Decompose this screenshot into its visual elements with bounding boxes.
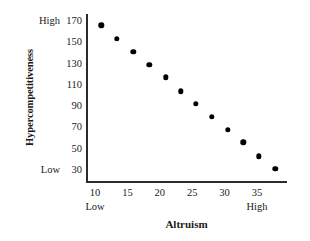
x-tick-label: 35 [252, 188, 263, 199]
x-axis-tick-labels: 101520253035LowHigh [0, 0, 310, 241]
x-tick-label: 20 [155, 188, 166, 199]
x-tick-label: 15 [122, 188, 133, 199]
scatter-chart: Hypercompetitiveness HighLow 30507090110… [0, 0, 310, 241]
x-tick-label: 10 [90, 188, 101, 199]
x-tick-label: 25 [187, 188, 198, 199]
x-axis-low-label: Low [85, 202, 104, 213]
x-axis-high-label: High [247, 202, 268, 213]
x-tick-label: 30 [219, 188, 230, 199]
x-axis-title: Altruism [86, 218, 287, 230]
